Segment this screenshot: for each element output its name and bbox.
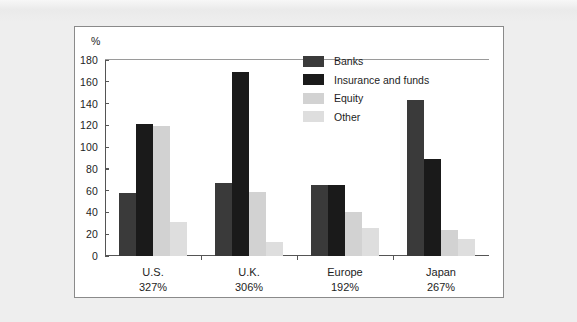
x-axis-group-separator: [201, 256, 202, 260]
x-axis-label-name: U.K.: [235, 265, 263, 280]
legend-item[interactable]: Banks: [303, 55, 429, 67]
bar[interactable]: [136, 124, 153, 256]
x-axis-label: U.S.327%: [139, 265, 167, 294]
legend-swatch: [303, 56, 324, 67]
y-axis-tick: 180: [80, 54, 105, 66]
legend-swatch: [303, 74, 324, 85]
legend-item-label: Other: [334, 111, 360, 123]
x-axis-label-total: 267%: [426, 280, 456, 295]
bar[interactable]: [424, 159, 441, 256]
y-axis-tick-mark: [105, 168, 109, 169]
bar[interactable]: [249, 192, 266, 256]
legend-swatch: [303, 111, 324, 122]
y-axis-tick: 100: [80, 141, 105, 153]
bar[interactable]: [153, 126, 170, 256]
x-axis-label: Europe192%: [327, 265, 362, 294]
bar[interactable]: [362, 228, 379, 256]
plot-area: 020406080100120140160180 U.S.327%U.K.306…: [105, 60, 489, 256]
y-axis-tick: 20: [86, 228, 105, 240]
x-axis-label-name: U.S.: [139, 265, 167, 280]
y-axis-tick-mark: [105, 103, 109, 104]
y-axis-tick: 80: [86, 163, 105, 175]
chart-panel: % 020406080100120140160180 U.S.327%U.K.3…: [74, 26, 504, 298]
y-axis-tick: 120: [80, 119, 105, 131]
y-axis-tick-mark: [105, 256, 109, 257]
y-axis-tick: 60: [86, 185, 105, 197]
y-axis-tick-mark: [105, 234, 109, 235]
y-axis-tick-mark: [105, 190, 109, 191]
bar[interactable]: [170, 222, 187, 256]
y-axis-tick: 160: [80, 76, 105, 88]
y-axis-tick-mark: [105, 212, 109, 213]
bar[interactable]: [119, 193, 136, 256]
x-axis-label-total: 306%: [235, 280, 263, 295]
x-axis-group-separator: [393, 256, 394, 260]
bar[interactable]: [232, 72, 249, 256]
legend-item[interactable]: Other: [303, 111, 429, 123]
y-axis-tick: 0: [92, 250, 105, 262]
bar[interactable]: [441, 230, 458, 256]
y-axis-tick-mark: [105, 147, 109, 148]
y-axis-unit-label: %: [91, 35, 100, 47]
x-axis-label-total: 192%: [327, 280, 362, 295]
x-axis-label-name: Japan: [426, 265, 456, 280]
legend-item-label: Insurance and funds: [334, 74, 429, 86]
y-axis-tick: 40: [86, 206, 105, 218]
legend-swatch: [303, 93, 324, 104]
bar-group: U.S.327%: [119, 60, 187, 256]
x-axis-label: Japan267%: [426, 265, 456, 294]
bar[interactable]: [345, 212, 362, 256]
y-axis-tick: 140: [80, 98, 105, 110]
bar-group: U.K.306%: [215, 60, 283, 256]
legend-item-label: Equity: [334, 92, 363, 104]
x-axis-label: U.K.306%: [235, 265, 263, 294]
bar[interactable]: [266, 242, 283, 256]
x-axis-group-separator: [297, 256, 298, 260]
legend-item[interactable]: Insurance and funds: [303, 74, 429, 86]
legend-item[interactable]: Equity: [303, 92, 429, 104]
chart-legend: BanksInsurance and fundsEquityOther: [303, 55, 429, 129]
bar[interactable]: [311, 185, 328, 256]
y-axis-tick-mark: [105, 60, 109, 61]
bar[interactable]: [458, 239, 475, 256]
y-axis-tick-mark: [105, 125, 109, 126]
x-axis-label-total: 327%: [139, 280, 167, 295]
bar[interactable]: [215, 183, 232, 256]
legend-item-label: Banks: [334, 55, 363, 67]
x-axis-label-name: Europe: [327, 265, 362, 280]
figure-container: % 020406080100120140160180 U.S.327%U.K.3…: [0, 0, 577, 322]
bar[interactable]: [328, 185, 345, 256]
y-axis-tick-mark: [105, 81, 109, 82]
